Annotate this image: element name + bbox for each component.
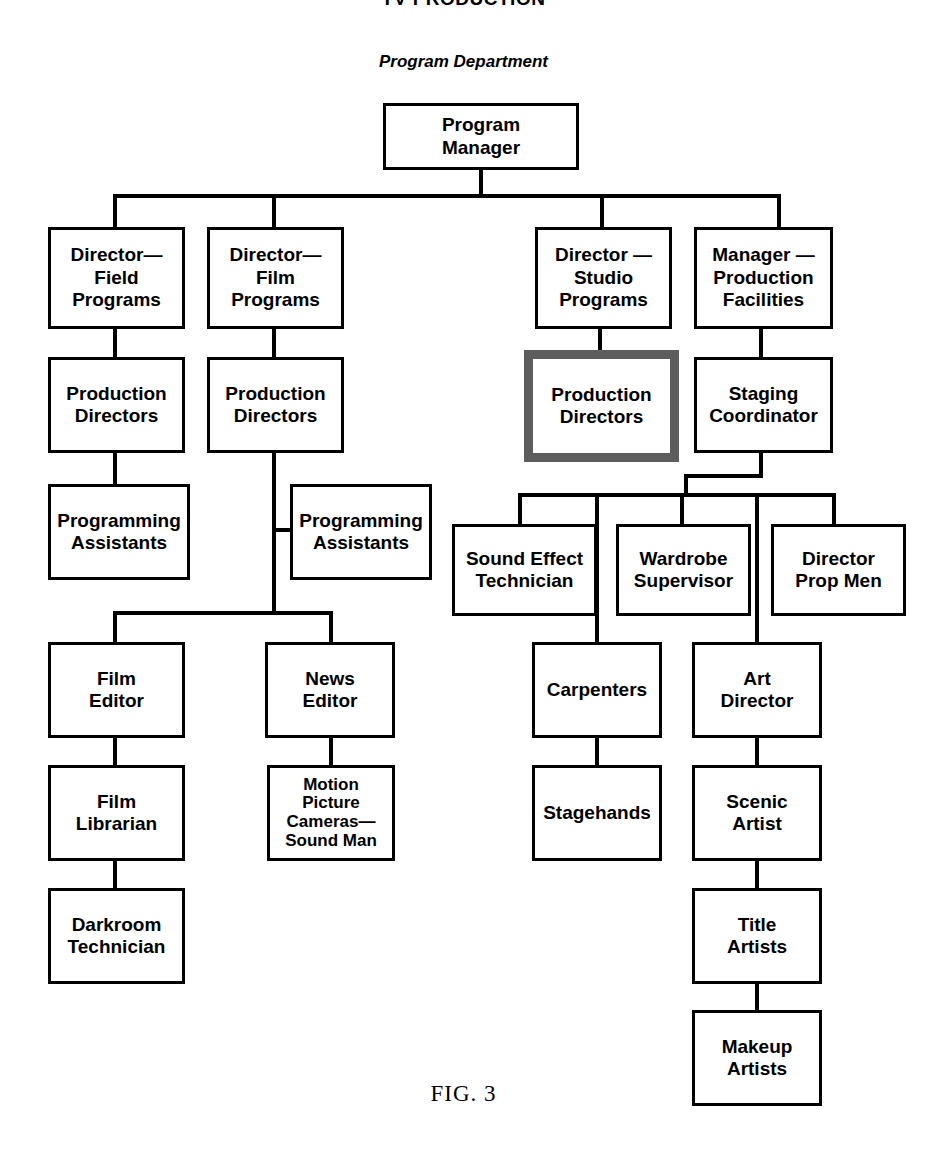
node-art-director[interactable]: Art Director (692, 642, 822, 738)
connector-pdfield-to-pa (113, 451, 117, 486)
connector-pm-stem (479, 170, 483, 197)
connector-drop-wardrobe (680, 493, 684, 527)
connector-editors-bus (113, 611, 333, 615)
node-motion-picture-cameras[interactable]: Motion Picture Cameras— Sound Man (267, 765, 395, 861)
node-director-studio[interactable]: Director — Studio Programs (535, 227, 672, 329)
connector-drop-director-film (272, 194, 276, 229)
node-news-editor[interactable]: News Editor (265, 642, 395, 738)
node-carpenters[interactable]: Carpenters (532, 642, 662, 738)
node-director-field[interactable]: Director— Field Programs (48, 227, 185, 329)
node-darkroom-technician[interactable]: Darkroom Technician (48, 888, 185, 984)
node-title-artists[interactable]: Title Artists (692, 888, 822, 984)
connector-film-ed-to-lib (113, 736, 117, 768)
node-staging-coordinator[interactable]: Staging Coordinator (694, 357, 833, 453)
connector-drop-sound-effect (518, 493, 522, 527)
connector-drop-director-studio (600, 194, 604, 229)
node-production-directors-field[interactable]: Production Directors (48, 357, 185, 453)
connector-staging-jog (684, 474, 763, 478)
connector-dstudio-to-pd (598, 327, 602, 352)
node-film-editor[interactable]: Film Editor (48, 642, 185, 738)
connector-drop-art-dir-col (755, 493, 759, 645)
node-wardrobe-supervisor[interactable]: Wardrobe Supervisor (616, 524, 751, 616)
connector-lib-to-dark (113, 859, 117, 891)
connector-drop-news-editor (329, 611, 333, 644)
document-top-heading: TV PRODUCTION (0, 0, 927, 10)
connector-staging-bus (518, 493, 836, 497)
node-production-directors-studio[interactable]: Production Directors (524, 350, 679, 462)
figure-page: TV PRODUCTION Program Department Program… (0, 0, 927, 1155)
connector-dfilm-to-pd (272, 327, 276, 359)
connector-scenic-to-title (755, 859, 759, 891)
node-production-directors-film[interactable]: Production Directors (207, 357, 344, 453)
connector-drop-manager-prod (777, 194, 781, 229)
connector-df-to-pd (113, 327, 117, 359)
node-scenic-artist[interactable]: Scenic Artist (692, 765, 822, 861)
connector-row2-bus (113, 194, 781, 198)
node-director-prop-men[interactable]: Director Prop Men (771, 524, 906, 616)
node-sound-effect-technician[interactable]: Sound Effect Technician (452, 524, 597, 616)
connector-title-to-makeup (755, 982, 759, 1013)
connector-carp-to-stage (595, 736, 599, 768)
connector-art-to-scenic (755, 736, 759, 768)
connector-pdfilm-trunk (272, 451, 276, 614)
node-makeup-artists[interactable]: Makeup Artists (692, 1010, 822, 1106)
connector-pa-film-stub (272, 528, 292, 532)
connector-drop-prop-men (832, 493, 836, 527)
node-film-librarian[interactable]: Film Librarian (48, 765, 185, 861)
node-manager-production[interactable]: Manager — Production Facilities (694, 227, 833, 329)
node-stagehands[interactable]: Stagehands (532, 765, 662, 861)
chart-subtitle: Program Department (0, 52, 927, 72)
node-programming-assistants-field[interactable]: Programming Assistants (48, 484, 190, 580)
connector-news-ed-to-mpc (329, 736, 333, 768)
connector-drop-film-editor (113, 611, 117, 644)
node-programming-assistants-film[interactable]: Programming Assistants (290, 484, 432, 580)
node-director-film[interactable]: Director— Film Programs (207, 227, 344, 329)
connector-drop-director-field (113, 194, 117, 229)
node-program-manager[interactable]: Program Manager (383, 103, 579, 170)
connector-mp-to-staging (759, 327, 763, 359)
